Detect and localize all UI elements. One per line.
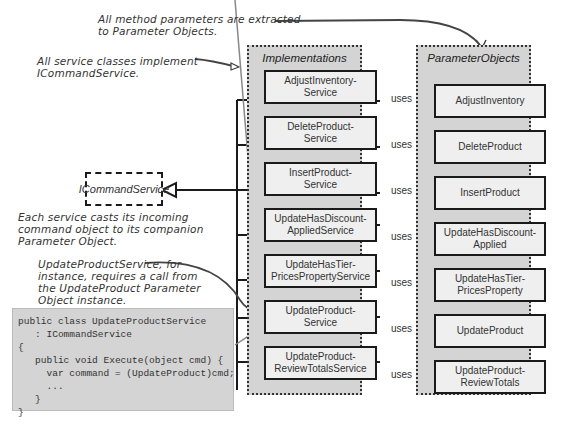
annotation-instance: UpdateProductService, for instance, requ… bbox=[38, 258, 201, 306]
uses-label: uses bbox=[390, 323, 413, 334]
uses-label: uses bbox=[390, 93, 413, 104]
uses-label: uses bbox=[390, 277, 413, 288]
interface-label: ICommandService bbox=[79, 183, 169, 195]
parameter-object-box: UpdateHasTier- PricesProperty bbox=[434, 268, 546, 302]
code-sample: public class UpdateProductService : ICom… bbox=[12, 308, 234, 411]
parameter-object-box: UpdateHasDiscount- Applied bbox=[434, 222, 546, 256]
parameter-object-box: UpdateProduct bbox=[434, 314, 546, 348]
annotation-casts: Each service casts its incoming command … bbox=[18, 211, 204, 247]
annotation-implement: All service classes implement ICommandSe… bbox=[37, 55, 198, 79]
panel-title-parameter-objects: ParameterObjects bbox=[418, 52, 529, 64]
uses-label: uses bbox=[390, 231, 413, 242]
interface-icommandservice: ICommandService bbox=[85, 172, 163, 206]
service-box: InsertProduct- Service bbox=[264, 162, 377, 196]
service-box: UpdateHasTier- PricesPropertyService bbox=[264, 254, 377, 288]
parameter-object-box: InsertProduct bbox=[434, 176, 546, 210]
uses-label: uses bbox=[390, 369, 413, 380]
uses-label: uses bbox=[390, 139, 413, 150]
service-box: UpdateProduct- Service bbox=[264, 300, 377, 334]
service-box: UpdateHasDiscount- AppliedService bbox=[264, 208, 377, 242]
uses-label: uses bbox=[390, 185, 413, 196]
service-box: UpdateProduct- ReviewTotalsService bbox=[264, 346, 377, 380]
panel-title-implementations: Implementations bbox=[249, 52, 360, 64]
service-box: DeleteProduct- Service bbox=[264, 116, 377, 150]
parameter-object-box: AdjustInventory bbox=[434, 84, 546, 118]
service-box: AdjustInventory- Service bbox=[264, 70, 377, 104]
annotation-parameters: All method parameters are extracted to P… bbox=[98, 13, 301, 37]
parameter-object-box: DeleteProduct bbox=[434, 130, 546, 164]
parameter-object-box: UpdateProduct- ReviewTotals bbox=[434, 360, 546, 394]
